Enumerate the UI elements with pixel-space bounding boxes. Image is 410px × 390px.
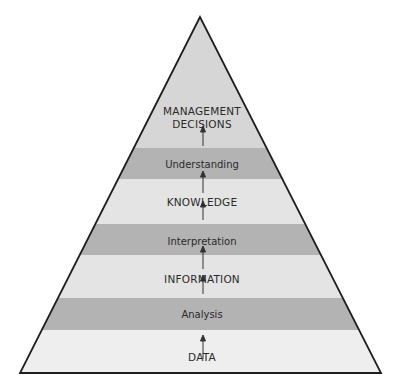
label-analysis: Analysis	[181, 309, 222, 320]
label-interpretation: Interpretation	[167, 236, 236, 247]
label-information: INFORMATION	[164, 273, 240, 285]
label-decisions: DECISIONS	[172, 118, 232, 130]
label-understanding: Understanding	[165, 159, 239, 170]
knowledge-pyramid-diagram: MANAGEMENT DECISIONS Understanding KNOWL…	[0, 0, 410, 390]
label-management: MANAGEMENT	[163, 105, 241, 117]
label-data: DATA	[188, 351, 216, 363]
label-knowledge: KNOWLEDGE	[167, 196, 238, 208]
